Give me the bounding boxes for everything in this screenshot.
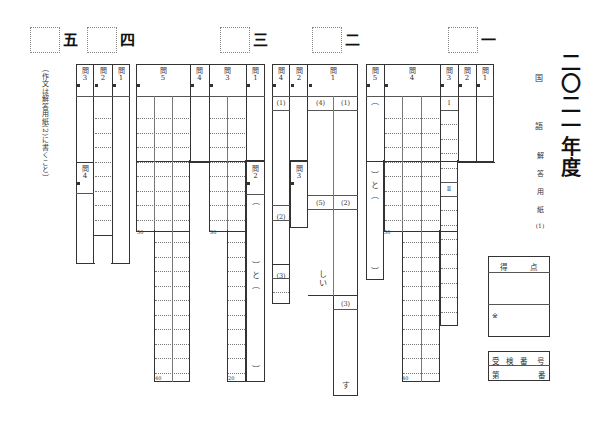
subpart-label: (1) bbox=[333, 99, 358, 107]
section-score-box[interactable] bbox=[220, 27, 250, 53]
question-label-s4-q3: 問3 bbox=[209, 68, 246, 87]
answer-field[interactable] bbox=[440, 110, 458, 182]
question-label-s3-q2: 問2 bbox=[290, 68, 308, 87]
subpart-label: (4) bbox=[308, 99, 333, 107]
exam-header-3: 番 bbox=[520, 355, 527, 366]
question-number: 1 bbox=[476, 75, 494, 82]
question-number: 2 bbox=[94, 75, 112, 82]
divider bbox=[308, 295, 334, 296]
answer-field[interactable] bbox=[76, 96, 94, 162]
exam-header-4: 号 bbox=[537, 355, 544, 366]
question-number: 3 bbox=[440, 75, 458, 82]
bullet-icon bbox=[137, 84, 140, 87]
section-score-box[interactable] bbox=[30, 27, 60, 53]
answer-field[interactable] bbox=[272, 110, 290, 205]
bullet-icon bbox=[77, 182, 80, 185]
question-label-s1-q2: 問2 bbox=[458, 68, 476, 87]
question-number: 4 bbox=[272, 75, 290, 82]
question-label-s3-q4: 問4 bbox=[272, 68, 290, 87]
question-label-s5-q1: 問1 bbox=[112, 68, 130, 87]
question-label-s1-q5: 問5 bbox=[366, 68, 384, 87]
question-number: 5 bbox=[366, 75, 384, 82]
score-header-left: 得 bbox=[500, 261, 507, 272]
section-score-box[interactable] bbox=[87, 27, 117, 53]
bullet-icon bbox=[291, 84, 294, 87]
question-label-s4-q2: 問2 bbox=[246, 166, 265, 185]
bullet-icon bbox=[191, 84, 194, 87]
sheet-char-2: 答 bbox=[534, 168, 546, 178]
answer-field[interactable] bbox=[476, 96, 494, 162]
bullet-icon bbox=[210, 84, 213, 87]
question-number: 1 bbox=[308, 75, 358, 82]
bullet-icon bbox=[273, 84, 276, 87]
score-note-mark: ※ bbox=[492, 312, 498, 320]
section-number: 三 bbox=[253, 33, 268, 48]
answer-field[interactable] bbox=[76, 193, 94, 264]
exam-suffix: 番 bbox=[538, 369, 545, 380]
answer-field[interactable] bbox=[366, 96, 384, 280]
answer-field[interactable] bbox=[272, 220, 290, 264]
question-label-s5-q3: 問3 bbox=[76, 68, 94, 87]
question-label-s1-q1: 問1 bbox=[476, 68, 494, 87]
section-number: 二 bbox=[345, 33, 360, 48]
section-score-box[interactable] bbox=[312, 27, 342, 53]
question-label-s5-q2: 問2 bbox=[94, 68, 112, 87]
sheet-char-3: 用 bbox=[534, 186, 546, 196]
answer-field[interactable] bbox=[272, 278, 290, 304]
bullet-icon bbox=[77, 84, 80, 87]
bullet-icon bbox=[477, 84, 480, 87]
answer-field[interactable] bbox=[290, 96, 308, 160]
question-number: 4 bbox=[76, 173, 94, 180]
bullet-icon bbox=[95, 84, 98, 87]
bullet-icon bbox=[247, 182, 250, 185]
subpart-label: (1) bbox=[272, 99, 290, 107]
exam-number-input[interactable] bbox=[502, 367, 536, 379]
answer-field[interactable] bbox=[333, 209, 358, 295]
answer-field[interactable] bbox=[246, 96, 265, 160]
subpart-label: (5) bbox=[308, 199, 333, 207]
section-number: 一 bbox=[481, 33, 496, 48]
exam-header-1: 受 bbox=[492, 355, 499, 366]
answer-field[interactable] bbox=[333, 309, 358, 396]
answer-field[interactable] bbox=[112, 96, 130, 264]
answer-field[interactable] bbox=[458, 96, 476, 162]
answer-field[interactable] bbox=[333, 110, 358, 195]
answer-field[interactable] bbox=[94, 96, 112, 235]
subject-char-2: 語 bbox=[533, 120, 545, 131]
question-number: 4 bbox=[190, 75, 209, 82]
question-number: 2 bbox=[246, 173, 265, 180]
question-label-s5-q4: 問4 bbox=[76, 166, 94, 185]
question-label-s1-q3: 問3 bbox=[440, 68, 458, 87]
bullet-icon bbox=[385, 84, 388, 87]
divider bbox=[94, 235, 112, 236]
exam-header-2: 検 bbox=[506, 355, 513, 366]
question-number: 1 bbox=[246, 75, 265, 82]
question-number: 2 bbox=[458, 75, 476, 82]
score-input[interactable] bbox=[490, 274, 548, 303]
answer-field[interactable] bbox=[308, 209, 333, 295]
answer-field[interactable] bbox=[209, 96, 246, 382]
answer-field[interactable] bbox=[136, 96, 190, 382]
question-label-s4-q5: 問5 bbox=[136, 68, 190, 87]
answer-field[interactable] bbox=[246, 194, 265, 382]
question-number: 3 bbox=[209, 75, 246, 82]
sheet-char-4: 紙 bbox=[534, 204, 546, 214]
section-score-box[interactable] bbox=[448, 27, 478, 53]
bullet-icon bbox=[309, 84, 312, 87]
essay-note: （作文は解答用紙(2)に書くこと） bbox=[40, 65, 50, 205]
sheet-char-5: (1) bbox=[533, 222, 547, 229]
answer-field[interactable] bbox=[308, 110, 333, 195]
answer-field[interactable] bbox=[290, 175, 308, 228]
section-number: 四 bbox=[120, 33, 135, 48]
sheet-char-1: 解 bbox=[534, 150, 546, 160]
exam-prefix: 第 bbox=[492, 369, 499, 380]
answer-field[interactable] bbox=[190, 96, 209, 162]
bullet-icon bbox=[113, 84, 116, 87]
score-header-right: 点 bbox=[530, 261, 537, 272]
question-label-s4-q4: 問4 bbox=[190, 68, 209, 87]
question-number: 2 bbox=[290, 75, 308, 82]
question-number: 5 bbox=[136, 75, 190, 82]
question-label-s4-q1: 問1 bbox=[246, 68, 265, 87]
answer-field[interactable] bbox=[440, 196, 458, 326]
divider bbox=[190, 162, 209, 163]
